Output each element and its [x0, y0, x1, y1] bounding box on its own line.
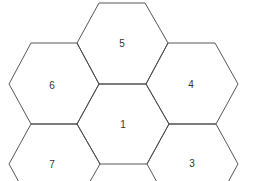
cell-label-1: 1: [120, 119, 126, 130]
cell-label-3: 3: [189, 158, 195, 169]
hexagon-grid: [0, 0, 253, 181]
cell-label-7: 7: [49, 159, 55, 170]
cell-label-5: 5: [119, 38, 125, 49]
hexagon-3: [147, 124, 238, 181]
cell-label-6: 6: [49, 80, 55, 91]
hexagon-7: [9, 124, 100, 181]
cell-label-4: 4: [188, 79, 194, 90]
